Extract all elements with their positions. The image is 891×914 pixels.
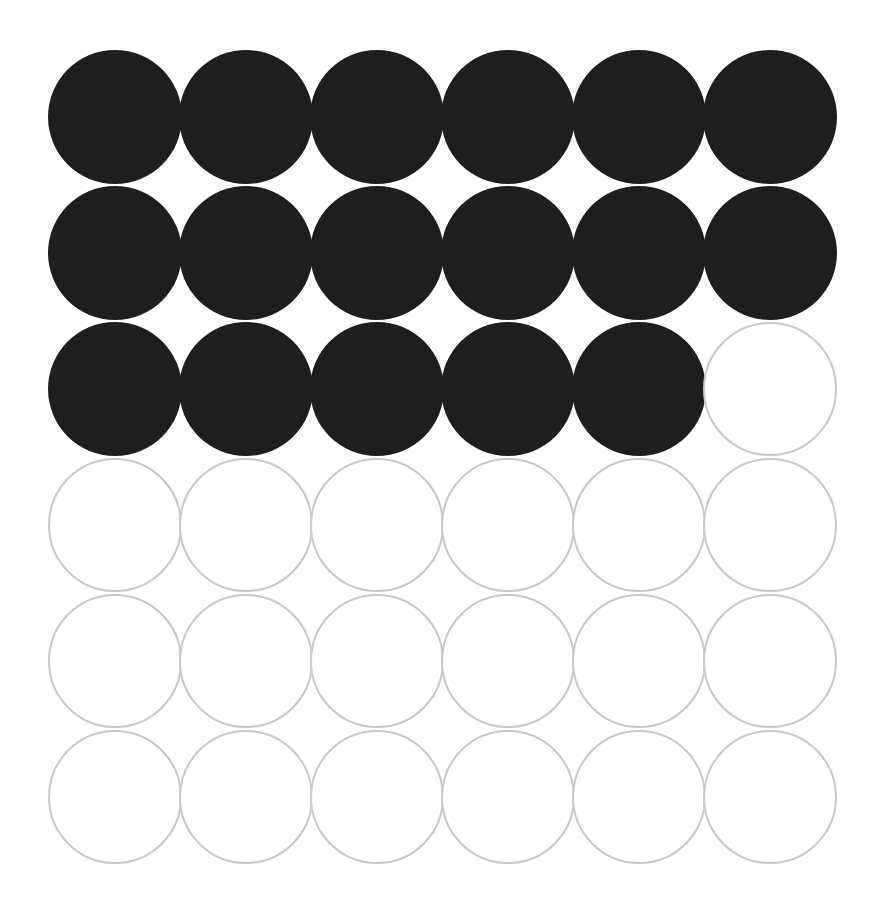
empty-circle [441, 594, 575, 728]
empty-circle [703, 322, 837, 456]
filled-circle [48, 186, 182, 320]
filled-circle [179, 50, 313, 184]
empty-circle [703, 594, 837, 728]
waffle-chart [0, 0, 891, 914]
filled-circle [310, 186, 444, 320]
filled-circle [703, 186, 837, 320]
empty-circle [179, 458, 313, 592]
filled-circle [572, 322, 706, 456]
filled-circle [179, 322, 313, 456]
filled-circle [572, 50, 706, 184]
empty-circle [48, 458, 182, 592]
filled-circle [48, 50, 182, 184]
filled-circle [48, 322, 182, 456]
empty-circle [572, 730, 706, 864]
empty-circle [310, 730, 444, 864]
filled-circle [441, 186, 575, 320]
filled-circle [179, 186, 313, 320]
empty-circle [179, 594, 313, 728]
filled-circle [441, 322, 575, 456]
empty-circle [572, 594, 706, 728]
filled-circle [310, 50, 444, 184]
empty-circle [441, 458, 575, 592]
empty-circle [48, 730, 182, 864]
filled-circle [310, 322, 444, 456]
empty-circle [703, 458, 837, 592]
filled-circle [703, 50, 837, 184]
empty-circle [310, 458, 444, 592]
filled-circle [572, 186, 706, 320]
empty-circle [441, 730, 575, 864]
empty-circle [703, 730, 837, 864]
empty-circle [48, 594, 182, 728]
empty-circle [572, 458, 706, 592]
empty-circle [310, 594, 444, 728]
empty-circle [179, 730, 313, 864]
filled-circle [441, 50, 575, 184]
